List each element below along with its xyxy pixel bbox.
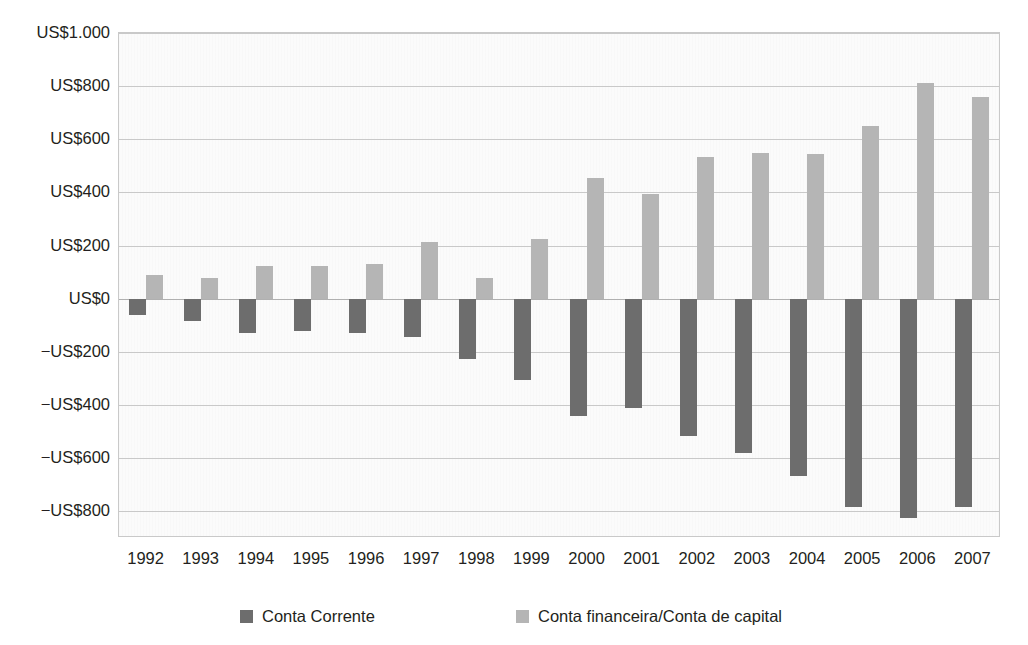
x-axis-labels: 1992199319941995199619971998199920002001… [118,548,1000,572]
bar-conta-financeira-2004 [807,154,824,299]
bar-conta-corrente-1998 [459,299,476,359]
x-tick-label: 2007 [937,548,1007,568]
bar-conta-financeira-1998 [476,278,493,299]
y-tick-label: US$1.000 [0,24,110,40]
bar-conta-corrente-1994 [239,299,256,334]
bar-conta-corrente-1995 [294,299,311,331]
bar-conta-financeira-2001 [642,194,659,299]
bar-conta-financeira-1993 [201,278,218,299]
bar-conta-corrente-2005 [845,299,862,508]
bar-conta-corrente-1992 [129,299,146,315]
legend-swatch-icon [240,610,253,623]
y-tick-label: US$0 [0,290,110,306]
legend-item: Conta financeira/Conta de capital [516,605,782,627]
bar-conta-financeira-1992 [146,275,163,299]
y-tick-label: US$800 [0,77,110,93]
bar-conta-financeira-2000 [587,178,604,299]
y-tick-label: US$400 [0,183,110,199]
legend-label: Conta Corrente [262,607,375,625]
bar-conta-financeira-1999 [531,239,548,299]
legend-item: Conta Corrente [240,605,375,627]
bar-conta-corrente-1999 [514,299,531,380]
legend-label: Conta financeira/Conta de capital [538,607,782,625]
y-tick-label: −US$600 [0,449,110,465]
y-tick-label: −US$800 [0,502,110,518]
bar-conta-financeira-1994 [256,266,273,299]
bar-conta-financeira-1997 [421,242,438,299]
chart-legend: Conta CorrenteConta financeira/Conta de … [0,605,1028,631]
plot-area [118,32,1000,537]
y-tick-label: US$200 [0,237,110,253]
bar-conta-financeira-2003 [752,153,769,299]
bar-chart-figure: US$1.000US$800US$600US$400US$200US$0−US$… [0,0,1028,645]
bar-conta-corrente-1996 [349,299,366,334]
bar-conta-corrente-2003 [735,299,752,453]
bar-conta-corrente-2006 [900,299,917,518]
bar-conta-financeira-2005 [862,126,879,299]
bar-conta-corrente-2001 [625,299,642,408]
bar-conta-corrente-1997 [404,299,421,338]
y-tick-label: −US$400 [0,396,110,412]
y-tick-label: US$600 [0,130,110,146]
y-axis-labels: US$1.000US$800US$600US$400US$200US$0−US$… [0,0,110,645]
bar-conta-financeira-2006 [917,83,934,299]
bar-conta-corrente-1993 [184,299,201,322]
bar-conta-financeira-2007 [972,97,989,299]
bar-conta-corrente-2002 [680,299,697,436]
bar-conta-financeira-2002 [697,157,714,299]
bar-conta-corrente-2007 [955,299,972,508]
y-tick-label: −US$200 [0,343,110,359]
bar-conta-financeira-1995 [311,266,328,299]
bar-conta-corrente-2004 [790,299,807,476]
bar-conta-corrente-2000 [570,299,587,416]
legend-swatch-icon [516,610,529,623]
bar-conta-financeira-1996 [366,264,383,299]
bars-layer [119,33,999,536]
